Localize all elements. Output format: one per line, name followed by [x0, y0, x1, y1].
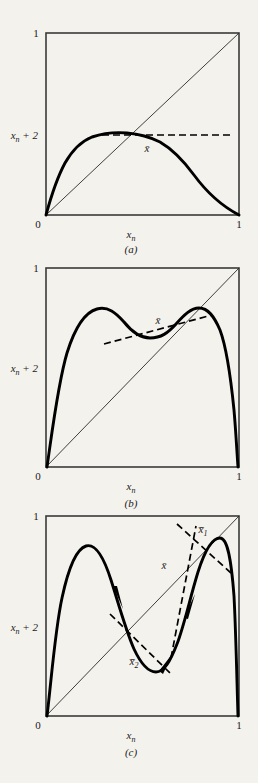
x-tick-min: 0 — [35, 218, 41, 230]
panel-label: (a) — [125, 243, 138, 256]
second-iterate-curve — [47, 538, 238, 716]
fixed-point-label-xbar: x̄ — [155, 314, 161, 326]
tangent-line-xbarbar2 — [110, 614, 170, 673]
x-tick-min: 0 — [35, 470, 41, 482]
x-tick-max: 1 — [236, 719, 242, 731]
y-tick-max: 1 — [33, 510, 39, 522]
identity-line — [46, 33, 239, 215]
y-tick-max: 1 — [33, 27, 39, 39]
x-tick-max: 1 — [236, 218, 242, 230]
x-axis-label: xn — [126, 228, 136, 243]
x-axis-label: xn — [126, 729, 136, 744]
panel-b-svg: 1 0 1 xn + 2 xn x̄ (b) — [0, 258, 258, 514]
x-axis-label: xn — [126, 480, 136, 495]
second-iterate-curve — [46, 133, 239, 215]
y-axis-label: xn + 2 — [10, 129, 39, 144]
x-tick-max: 1 — [236, 470, 242, 482]
figure-three-panel-iterated-map: 1 0 1 xn + 2 xn x̄ (a) 1 0 — [0, 0, 258, 783]
identity-line — [46, 268, 239, 467]
panel-a-svg: 1 0 1 xn + 2 xn x̄ (a) — [0, 0, 258, 260]
chart-panel-a: 1 0 1 xn + 2 xn x̄ (a) — [0, 0, 258, 260]
x-tick-min: 0 — [35, 719, 41, 731]
panel-label: (c) — [125, 746, 138, 759]
chart-panel-b: 1 0 1 xn + 2 xn x̄ (b) — [0, 258, 258, 514]
second-iterate-curve — [47, 308, 238, 467]
fixed-point-label-xbar: x̄ — [161, 559, 167, 571]
y-tick-max: 1 — [33, 262, 39, 274]
y-axis-label: xn + 2 — [10, 362, 39, 377]
y-axis-label: xn + 2 — [10, 621, 39, 636]
fixed-point-label-xbarbar1: x̄̅1 — [198, 523, 208, 538]
chart-panel-c: 1 0 1 xn + 2 xn x̄ x̄̅1 x̄̅2 (c) — [0, 506, 258, 783]
fixed-point-label-xbar: x̄ — [144, 142, 150, 154]
panel-c-svg: 1 0 1 xn + 2 xn x̄ x̄̅1 x̄̅2 (c) — [0, 506, 258, 783]
